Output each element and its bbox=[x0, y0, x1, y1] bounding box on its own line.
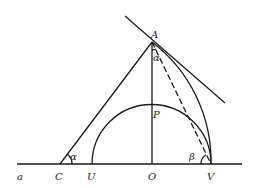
angle-arc-V bbox=[201, 155, 206, 164]
label-O: O bbox=[148, 171, 156, 182]
segment-CA bbox=[60, 42, 152, 164]
label-beta-V: β bbox=[188, 151, 195, 162]
label-V: V bbox=[207, 171, 216, 182]
tangent-line bbox=[125, 16, 225, 103]
label-U: U bbox=[87, 171, 96, 182]
label-a: a bbox=[17, 171, 23, 182]
label-A: A bbox=[150, 29, 158, 40]
label-alpha-A: α bbox=[153, 52, 160, 63]
dashed-AV bbox=[152, 42, 211, 164]
label-C: C bbox=[55, 171, 63, 182]
label-alpha-C: α bbox=[70, 151, 77, 162]
label-P: P bbox=[152, 109, 160, 120]
geometry-diagram: a C U O V A P α α β bbox=[0, 0, 256, 188]
